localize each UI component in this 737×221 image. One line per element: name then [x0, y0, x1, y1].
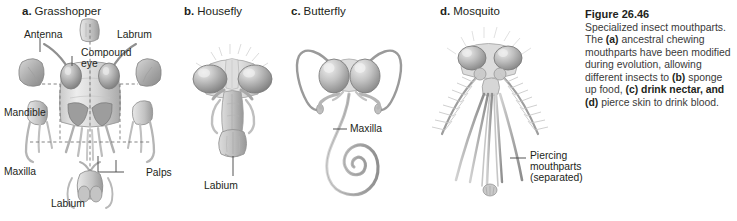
panel-grasshopper-letter: a.	[22, 5, 32, 17]
figure-number: Figure 26.46	[585, 8, 731, 21]
caption-rich: The (a) ancestral chewing mouthparts hav…	[585, 34, 731, 107]
grasshopper-palps-leader	[98, 156, 124, 172]
mosquito-piercing-stylets	[456, 94, 522, 186]
panel-grasshopper-name: Grasshopper	[35, 5, 101, 17]
mosquito-antenna-right	[500, 73, 548, 134]
panel-butterfly: c.Butterfly	[285, 0, 410, 221]
label-labium-grasshopper: Labium	[51, 198, 85, 210]
label-maxilla-butterfly: Maxilla	[350, 123, 382, 135]
label-compound-eye: Compound eye	[81, 47, 139, 70]
figure-root: a.Grasshopper	[0, 0, 737, 221]
label-mandible: Mandible	[4, 107, 46, 119]
panel-grasshopper: a.Grasshopper	[0, 0, 180, 221]
label-piercing-mouthparts: Piercing mouthparts (separated)	[530, 150, 586, 184]
mosquito-illustration	[410, 24, 585, 214]
panel-housefly-name: Housefly	[197, 5, 242, 17]
figure-caption-text: Specialized insect mouthparts. The (a) a…	[585, 22, 731, 109]
panel-housefly: b.Housefly	[180, 0, 285, 221]
figure-caption: Figure 26.46 Specialized insect mouthpar…	[585, 8, 731, 109]
label-maxilla: Maxilla	[4, 166, 36, 178]
mosquito-labellum-tip	[483, 184, 497, 196]
label-labrum: Labrum	[117, 29, 152, 41]
panel-butterfly-heading: c.Butterfly	[291, 5, 346, 17]
label-palps: Palps	[146, 167, 172, 179]
panel-housefly-letter: b.	[184, 5, 194, 17]
butterfly-illustration	[285, 24, 410, 206]
housefly-illustration	[180, 36, 285, 186]
label-labium-housefly: Labium	[204, 180, 238, 192]
panel-mosquito: d.Mosquito	[410, 0, 585, 221]
panel-mosquito-name: Mosquito	[453, 5, 500, 17]
panel-housefly-heading: b.Housefly	[184, 5, 242, 17]
panel-mosquito-letter: d.	[440, 5, 450, 17]
panel-mosquito-heading: d.Mosquito	[440, 5, 500, 17]
caption-lead: Specialized insect mouthparts.	[585, 22, 726, 33]
label-antenna: Antenna	[24, 29, 62, 41]
panel-butterfly-letter: c.	[291, 5, 301, 17]
panel-grasshopper-heading: a.Grasshopper	[22, 5, 101, 17]
panel-butterfly-name: Butterfly	[304, 5, 346, 17]
